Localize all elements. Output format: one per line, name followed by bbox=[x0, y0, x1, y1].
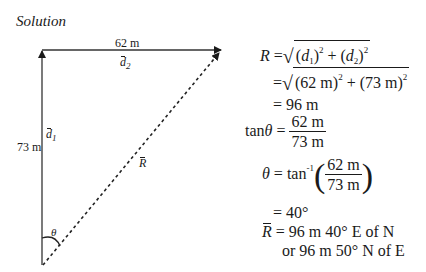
d1-vector-label: d1 bbox=[46, 127, 57, 143]
d2-magnitude-label: 62 m bbox=[115, 36, 139, 51]
resultant-vector-arrow bbox=[43, 53, 219, 265]
equation-resultant-direction: R = 96 m 40° E of N bbox=[262, 222, 394, 242]
equation-theta-result: = 40° bbox=[273, 203, 308, 223]
equation-resultant-alternate: or 96 m 50° N of E bbox=[282, 241, 405, 261]
d1-magnitude-label: 73 m bbox=[17, 140, 41, 155]
equation-magnitude-result: = 96 m bbox=[273, 95, 318, 115]
equation-magnitude-formula: R =√(d1)2 + (d2)2 bbox=[260, 40, 370, 70]
resultant-label: R bbox=[139, 156, 146, 171]
equation-substitution: =√(62 m)2 + (73 m)2 bbox=[273, 67, 409, 93]
angle-theta-arc bbox=[42, 237, 60, 246]
equation-tan-theta: tanθ = 62 m73 m bbox=[245, 113, 326, 152]
d2-vector-label: d2 bbox=[120, 55, 131, 71]
equation-theta-inverse-tan: θ = tan-1(62 m73 m) bbox=[262, 156, 373, 195]
angle-theta-label: θ bbox=[51, 226, 56, 238]
